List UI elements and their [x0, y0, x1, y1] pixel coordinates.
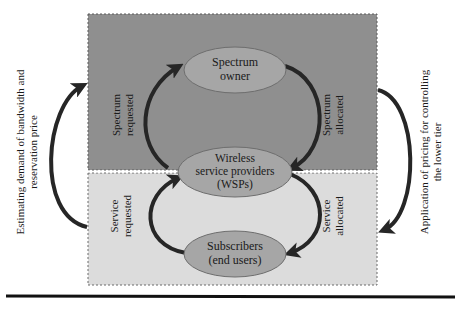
pricing-application-arrow [378, 90, 410, 230]
wsp-label-3: (WSPs) [217, 178, 253, 191]
svg-text:allocated: allocated [333, 196, 345, 236]
spectrum-allocated-label: Spectrum allocated [320, 93, 345, 136]
svg-text:the lower tier: the lower tier [431, 122, 443, 181]
wsp-label-2: service providers [196, 165, 275, 178]
bottom-rule [6, 296, 455, 297]
spectrum-owner-label-1: Spectrum [212, 55, 259, 69]
two-tier-diagram: Spectrum owner Wireless service provider… [0, 0, 464, 312]
wsp-label-1: Wireless [215, 152, 255, 164]
svg-text:Estimating demand of bandwidth: Estimating demand of bandwidth and [14, 69, 26, 234]
svg-text:Service: Service [320, 199, 332, 232]
svg-text:Spectrum: Spectrum [320, 93, 332, 136]
demand-estimation-label: Estimating demand of bandwidth and reser… [14, 69, 39, 234]
spectrum-owner-node: Spectrum owner [184, 47, 286, 93]
spectrum-owner-label-2: owner [220, 69, 250, 83]
pricing-application-label: Application of pricing for controlling t… [418, 69, 443, 234]
service-allocated-label: Service allocated [320, 196, 345, 236]
subscribers-label-2: (end users) [209, 253, 262, 267]
svg-text:allocated: allocated [333, 95, 345, 135]
subscribers-node: Subscribers (end users) [184, 231, 286, 277]
subscribers-label-1: Subscribers [207, 239, 263, 253]
wsp-node: Wireless service providers (WSPs) [178, 147, 292, 197]
svg-text:Spectrum: Spectrum [110, 93, 122, 136]
svg-text:Application of pricing for con: Application of pricing for controlling [418, 69, 430, 234]
service-requested-label: Service requested [108, 194, 133, 237]
svg-text:Service: Service [108, 199, 120, 232]
svg-text:requested: requested [121, 194, 133, 237]
spectrum-requested-label: Spectrum requested [110, 93, 135, 136]
svg-text:requested: requested [123, 93, 135, 136]
svg-text:reservation price: reservation price [27, 115, 39, 189]
demand-estimation-arrow [51, 86, 87, 227]
